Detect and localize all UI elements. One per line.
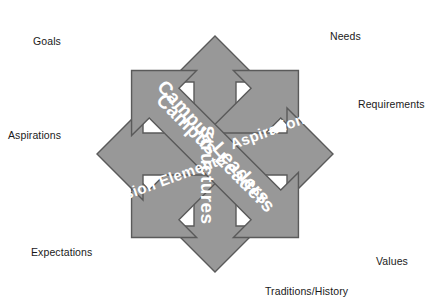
outer-label-aspirations: Aspirations	[8, 130, 61, 142]
outer-label-needs: Needs	[330, 31, 361, 43]
outer-label-requirements: Requirements	[358, 99, 425, 111]
star-diagram: Mission Elements Aspirations Campus Lead…	[0, 0, 430, 308]
outer-label-goals: Goals	[33, 36, 61, 48]
star-arrows-graphic: Mission Elements Aspirations Campus Lead…	[0, 0, 430, 308]
outer-label-expectations: Expectations	[31, 247, 92, 259]
outer-label-traditions-history: Traditions/History	[265, 286, 348, 298]
outer-label-values: Values	[376, 256, 408, 268]
